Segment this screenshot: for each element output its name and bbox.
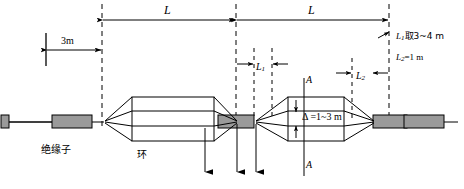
insulator-right-outer	[404, 115, 444, 128]
label-span-left: L	[164, 4, 171, 16]
label-section-bottom: A	[306, 160, 312, 170]
label-ring: 环	[137, 150, 147, 160]
label-span-right: L	[308, 4, 315, 16]
bundle-left-body	[132, 97, 214, 141]
note-l1-text: 取3~4 m	[405, 31, 445, 41]
reference-lines	[102, 4, 389, 126]
label-delta: Δ =1~3 m	[302, 112, 342, 122]
label-l2-sub: 2	[362, 74, 366, 82]
label-l1-sub: 1	[262, 65, 266, 73]
label-l2: L2	[356, 66, 365, 82]
diagram-svg	[0, 0, 464, 189]
note-l2: L2=1 m	[396, 53, 423, 63]
load-arrows	[205, 124, 256, 172]
label-offset-3m: 3m	[61, 36, 74, 46]
insulator-right-inner	[373, 115, 407, 128]
bundle-right-fan-f	[344, 111, 374, 121]
insulator-left-inner	[218, 115, 254, 128]
insulator-left-outer	[52, 115, 92, 128]
label-l1: L1	[256, 57, 265, 73]
bundle-right-fan-a	[256, 97, 288, 121]
bundle-left-fan-a	[105, 97, 132, 121]
note-leader	[378, 32, 389, 38]
dimension-lines	[47, 20, 388, 73]
label-section-top: A	[306, 75, 312, 85]
bundle-left	[105, 97, 237, 141]
insulator-group	[1, 115, 444, 128]
bundle-left-fan-b	[105, 111, 132, 121]
insulator-left-edge	[1, 115, 9, 128]
label-insulator: 绝缘子	[41, 145, 71, 155]
note-l1: L1取3~4 m	[396, 32, 444, 42]
bundle-right-fan-e	[344, 97, 374, 121]
diagram-canvas: L L 3m L1 L2 L1取3~4 m L2=1 m Δ =1~3 m A …	[0, 0, 464, 189]
note-l2-text: =1 m	[405, 52, 424, 62]
